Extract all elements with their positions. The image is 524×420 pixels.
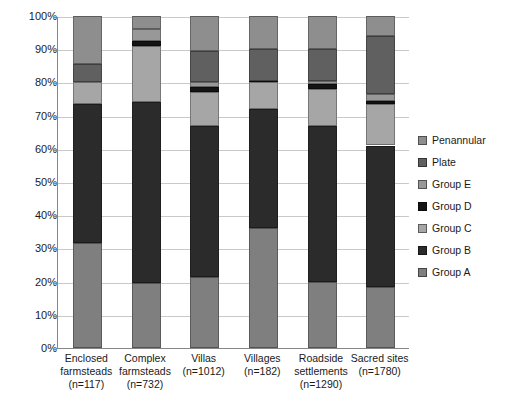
x-axis-label: Villages(n=182) [233, 352, 292, 378]
legend-item-group-a[interactable]: Group A [418, 261, 522, 283]
bar-segment-group-a[interactable] [308, 282, 337, 348]
bar-segment-group-e[interactable] [308, 81, 337, 84]
bar-segment-plate[interactable] [249, 49, 278, 81]
x-axis-label-line: Enclosed [57, 352, 116, 365]
stacked-bar[interactable] [249, 17, 278, 348]
gridline-0 [58, 349, 409, 350]
legend-item-group-c[interactable]: Group C [418, 217, 522, 239]
stacked-bar[interactable] [308, 17, 337, 348]
x-axis-label-line: Villas [174, 352, 233, 365]
x-axis-label-line: Villages [233, 352, 292, 365]
bar-segment-group-b[interactable] [308, 126, 337, 282]
bar-segment-group-e[interactable] [190, 82, 219, 87]
legend-label: Group A [432, 267, 471, 278]
x-axis-label-line: farmsteads [116, 365, 175, 378]
bar-segment-group-c[interactable] [308, 89, 337, 126]
bar-segment-plate[interactable] [73, 64, 102, 82]
plot-area [57, 17, 409, 349]
legend-swatch-icon [418, 224, 427, 233]
stacked-bar[interactable] [73, 17, 102, 348]
bar-segment-group-e[interactable] [132, 29, 161, 41]
legend-item-penannular[interactable]: Penannular [418, 129, 522, 151]
bar-group [366, 17, 395, 348]
bar-segment-penannular[interactable] [308, 16, 337, 49]
bar-group [132, 17, 161, 348]
y-tick-mark [53, 349, 57, 350]
bar-segment-group-c[interactable] [249, 82, 278, 109]
legend-label: Group B [432, 245, 471, 256]
bar-segment-penannular[interactable] [249, 16, 278, 49]
y-tick-label: 100% [11, 11, 57, 22]
bar-segment-group-b[interactable] [366, 146, 395, 287]
y-tick-label: 30% [11, 243, 57, 254]
bar-segment-group-d[interactable] [190, 87, 219, 92]
stacked-bar-chart: 0%10%20%30%40%50%60%70%80%90%100% Enclos… [0, 0, 524, 420]
bar-segment-plate[interactable] [308, 49, 337, 81]
bar-segment-group-b[interactable] [190, 126, 219, 277]
y-tick-label: 20% [11, 277, 57, 288]
bar-segment-plate[interactable] [366, 36, 395, 94]
x-axis-label: Sacred sites(n=1780) [350, 352, 409, 378]
bar-segment-group-d[interactable] [308, 84, 337, 89]
x-axis-labels: Enclosedfarmsteads(n=117)Complexfarmstea… [57, 352, 409, 414]
legend-swatch-icon [418, 268, 427, 277]
bars-layer [58, 17, 409, 348]
x-axis-label-line: (n=182) [233, 365, 292, 378]
legend-label: Plate [432, 157, 456, 168]
bar-group [73, 17, 102, 348]
bar-segment-group-a[interactable] [73, 243, 102, 348]
bar-segment-group-a[interactable] [132, 283, 161, 348]
y-tick-label: 10% [11, 310, 57, 321]
y-axis: 0%10%20%30%40%50%60%70%80%90%100% [0, 0, 57, 349]
legend-swatch-icon [418, 136, 427, 145]
legend-item-group-b[interactable]: Group B [418, 239, 522, 261]
x-axis-label: Complexfarmsteads(n=732) [116, 352, 175, 391]
legend-swatch-icon [418, 180, 427, 189]
y-tick-label: 60% [11, 144, 57, 155]
stacked-bar[interactable] [366, 17, 395, 348]
bar-segment-group-d[interactable] [366, 101, 395, 104]
bar-segment-penannular[interactable] [366, 16, 395, 36]
bar-segment-group-b[interactable] [132, 102, 161, 283]
stacked-bar[interactable] [190, 17, 219, 348]
legend-label: Group D [432, 201, 472, 212]
x-axis-label: Roadsidesettlements(n=1290) [292, 352, 351, 391]
bar-group [249, 17, 278, 348]
legend-swatch-icon [418, 246, 427, 255]
x-axis-label-line: (n=1012) [174, 365, 233, 378]
bar-segment-group-d[interactable] [132, 41, 161, 46]
bar-segment-group-b[interactable] [249, 109, 278, 229]
x-axis-label-line: Roadside [292, 352, 351, 365]
legend-item-plate[interactable]: Plate [418, 151, 522, 173]
bar-segment-group-a[interactable] [249, 228, 278, 348]
bar-segment-group-a[interactable] [190, 277, 219, 348]
bar-segment-group-e[interactable] [366, 94, 395, 101]
bar-segment-group-c[interactable] [132, 46, 161, 102]
y-tick-label: 40% [11, 210, 57, 221]
bar-segment-penannular[interactable] [132, 16, 161, 29]
legend-label: Group C [432, 223, 472, 234]
legend-item-group-e[interactable]: Group E [418, 173, 522, 195]
y-tick-label: 70% [11, 111, 57, 122]
x-axis-label: Enclosedfarmsteads(n=117) [57, 352, 116, 391]
stacked-bar[interactable] [132, 17, 161, 348]
bar-group [190, 17, 219, 348]
x-axis-label-line: farmsteads [57, 365, 116, 378]
legend-item-group-d[interactable]: Group D [418, 195, 522, 217]
y-tick-label: 80% [11, 77, 57, 88]
x-axis-label-line: (n=117) [57, 378, 116, 391]
legend-label: Penannular [432, 135, 486, 146]
y-tick-label: 50% [11, 177, 57, 188]
bar-segment-group-c[interactable] [190, 92, 219, 125]
bar-segment-penannular[interactable] [190, 16, 219, 51]
bar-segment-penannular[interactable] [73, 16, 102, 64]
chart-legend: PenannularPlateGroup EGroup DGroup CGrou… [418, 129, 522, 283]
legend-swatch-icon [418, 202, 427, 211]
bar-segment-plate[interactable] [190, 51, 219, 83]
bar-group [308, 17, 337, 348]
legend-swatch-icon [418, 158, 427, 167]
bar-segment-group-a[interactable] [366, 287, 395, 348]
bar-segment-group-c[interactable] [366, 104, 395, 146]
bar-segment-group-c[interactable] [73, 82, 102, 104]
bar-segment-group-b[interactable] [73, 104, 102, 243]
